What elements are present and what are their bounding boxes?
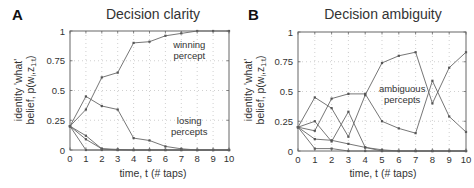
data-point — [398, 55, 400, 57]
svg-text:belief, p(wi,z1:t): belief, p(wi,z1:t) — [254, 56, 267, 125]
y-tick-label: 0.5 — [280, 86, 293, 97]
data-point — [331, 139, 333, 141]
data-point — [398, 127, 400, 129]
y-tick-label: 0.5 — [52, 85, 65, 96]
data-point — [85, 108, 87, 110]
data-point — [448, 115, 450, 117]
data-point — [85, 95, 87, 97]
x-tick-label: 6 — [396, 154, 401, 165]
annotation: losingpercepts — [171, 115, 208, 137]
x-axis-label: time, t (# taps) — [349, 167, 416, 179]
x-tick-label: 0 — [67, 153, 72, 164]
data-point — [448, 67, 450, 69]
data-point — [364, 146, 366, 148]
y-axis-label: identity 'what' belief, p(wi,z1:t) — [12, 56, 37, 125]
series-line — [298, 112, 466, 151]
data-point — [164, 35, 166, 37]
data-point — [381, 62, 383, 64]
data-point — [347, 111, 349, 113]
annotations: ambiguouspercepts — [379, 83, 426, 105]
data-point — [314, 138, 316, 140]
x-tick-label: 2 — [99, 153, 104, 164]
panel-a: A Decision clarity 01234567891000.250.50… — [12, 6, 234, 179]
x-tick-label: 7 — [179, 153, 184, 164]
y-tick-label: 0 — [60, 145, 65, 156]
panel-letter: B — [248, 6, 259, 23]
svg-text:identity 'what': identity 'what' — [12, 59, 24, 121]
annotations: winningperceptlosingpercepts — [171, 39, 208, 137]
x-tick-label: 2 — [329, 154, 334, 165]
data-point — [164, 145, 166, 147]
data-point — [381, 120, 383, 122]
x-tick-label: 7 — [413, 154, 418, 165]
data-point — [415, 51, 417, 53]
data-point — [314, 120, 316, 122]
x-tick-label: 4 — [131, 153, 136, 164]
data-point — [347, 143, 349, 145]
x-tick-label: 8 — [430, 154, 435, 165]
data-point — [347, 136, 349, 138]
data-point — [431, 80, 433, 82]
data-point — [117, 108, 119, 110]
x-tick-label: 9 — [447, 154, 452, 165]
y-tick-label: 1 — [60, 26, 65, 37]
data-point — [133, 137, 135, 139]
data-point — [347, 93, 349, 95]
x-tick-label: 10 — [461, 154, 472, 165]
x-tick-label: 9 — [210, 153, 215, 164]
data-point — [133, 42, 135, 44]
x-axis-label: time, t (# taps) — [119, 167, 186, 179]
annotation: ambiguouspercepts — [379, 83, 426, 105]
data-point — [331, 98, 333, 100]
chart-title: Decision clarity — [106, 6, 200, 22]
x-tick-label: 5 — [379, 154, 384, 165]
axis-ticks: 01234567891000.250.50.751 — [275, 27, 472, 166]
data-point — [364, 93, 366, 95]
data-point — [431, 102, 433, 104]
chart-title: Decision ambiguity — [324, 6, 442, 22]
x-tick-label: 10 — [224, 153, 235, 164]
data-point — [314, 130, 316, 132]
svg-text:identity 'what': identity 'what' — [242, 59, 254, 121]
data-point — [117, 72, 119, 74]
data-point — [101, 76, 103, 78]
axis-ticks: 01234567891000.250.50.751 — [47, 26, 235, 165]
x-tick-label: 1 — [83, 153, 88, 164]
data-point — [314, 96, 316, 98]
panel-b: B Decision ambiguity 01234567891000.250.… — [242, 6, 471, 179]
x-tick-label: 8 — [195, 153, 200, 164]
data-point — [101, 105, 103, 107]
x-tick-label: 6 — [163, 153, 168, 164]
x-tick-label: 1 — [312, 154, 317, 165]
data-point — [148, 139, 150, 141]
y-axis-label: identity 'what' belief, p(wi,z1:t) — [242, 56, 267, 125]
data-point — [331, 107, 333, 109]
x-tick-label: 3 — [346, 154, 351, 165]
y-tick-label: 1 — [288, 27, 293, 38]
data-point — [148, 41, 150, 43]
y-tick-label: 0.25 — [47, 115, 66, 126]
data-point — [85, 135, 87, 137]
svg-text:belief, p(wi,z1:t): belief, p(wi,z1:t) — [24, 56, 37, 125]
data-point — [415, 132, 417, 134]
x-tick-label: 0 — [295, 154, 300, 165]
x-tick-label: 3 — [115, 153, 120, 164]
x-tick-label: 4 — [363, 154, 368, 165]
panel-letter: A — [12, 6, 23, 23]
y-tick-label: 0.75 — [47, 55, 66, 66]
y-tick-label: 0 — [288, 146, 293, 157]
annotation: winningpercept — [172, 39, 205, 61]
x-tick-label: 5 — [147, 153, 152, 164]
y-tick-label: 0.75 — [275, 56, 294, 67]
figure: A Decision clarity 01234567891000.250.50… — [0, 0, 474, 188]
data-point — [85, 138, 87, 140]
y-tick-label: 0.25 — [275, 116, 294, 127]
